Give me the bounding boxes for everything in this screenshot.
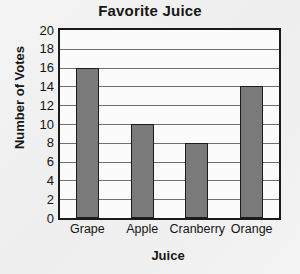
y-tick-label: 14 <box>8 80 54 93</box>
x-tick-label: Cranberry <box>170 222 225 236</box>
bar <box>131 124 154 218</box>
y-tick-label: 10 <box>8 118 54 131</box>
bar <box>76 68 99 218</box>
y-tick-label: 0 <box>8 212 54 225</box>
y-axis-tick-labels: 20181614121086420 <box>6 28 54 220</box>
bar <box>185 143 208 218</box>
x-tick-label: Apple <box>115 222 170 236</box>
y-tick-label: 8 <box>8 136 54 149</box>
y-tick-label: 6 <box>8 155 54 168</box>
y-tick-label: 20 <box>8 24 54 37</box>
y-tick-label: 18 <box>8 42 54 55</box>
x-axis-title: Juice <box>55 248 281 263</box>
x-axis-tick-labels: GrapeAppleCranberryOrange <box>58 222 281 244</box>
y-tick-label: 4 <box>8 174 54 187</box>
x-tick-label: Grape <box>60 222 115 236</box>
chart-title: Favorite Juice <box>0 2 300 19</box>
y-tick-label: 12 <box>8 99 54 112</box>
bar <box>240 86 263 218</box>
y-tick-label: 16 <box>8 61 54 74</box>
bar-chart: Favorite Juice Number of Votes 201816141… <box>0 0 300 274</box>
gridline <box>60 49 279 50</box>
x-tick-label: Orange <box>224 222 279 236</box>
plot-area <box>58 28 281 220</box>
y-tick-label: 2 <box>8 193 54 206</box>
